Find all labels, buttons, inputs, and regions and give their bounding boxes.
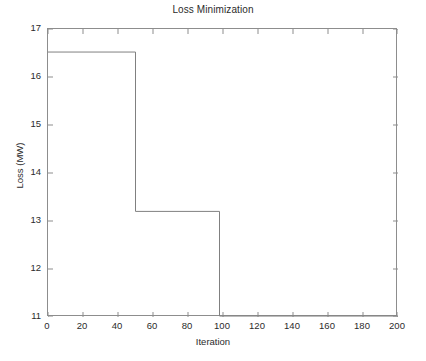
- x-tick-label: 160: [307, 320, 347, 331]
- loss-series-line: [48, 52, 398, 316]
- x-axis-title: Iteration: [0, 336, 426, 347]
- x-tick-label: 180: [342, 320, 382, 331]
- chart-title: Loss Minimization: [0, 4, 426, 15]
- x-tick-label: 0: [27, 320, 67, 331]
- x-tick-label: 80: [167, 320, 207, 331]
- y-tick-marks: [48, 29, 398, 317]
- chart-figure: Loss Minimization 11121314151617 0204060…: [0, 0, 426, 361]
- y-tick-label: 12: [13, 262, 41, 273]
- y-tick-label: 16: [13, 70, 41, 81]
- x-tick-label: 60: [132, 320, 172, 331]
- x-tick-label: 20: [62, 320, 102, 331]
- x-tick-label: 120: [237, 320, 277, 331]
- plot-area: [47, 28, 397, 316]
- x-tick-label: 140: [272, 320, 312, 331]
- x-tick-label: 100: [202, 320, 242, 331]
- x-tick-marks: [48, 29, 398, 317]
- x-tick-label: 200: [377, 320, 417, 331]
- plot-svg: [48, 29, 398, 317]
- y-axis-title: Loss (MW): [14, 111, 25, 221]
- x-tick-label: 40: [97, 320, 137, 331]
- y-tick-label: 17: [13, 22, 41, 33]
